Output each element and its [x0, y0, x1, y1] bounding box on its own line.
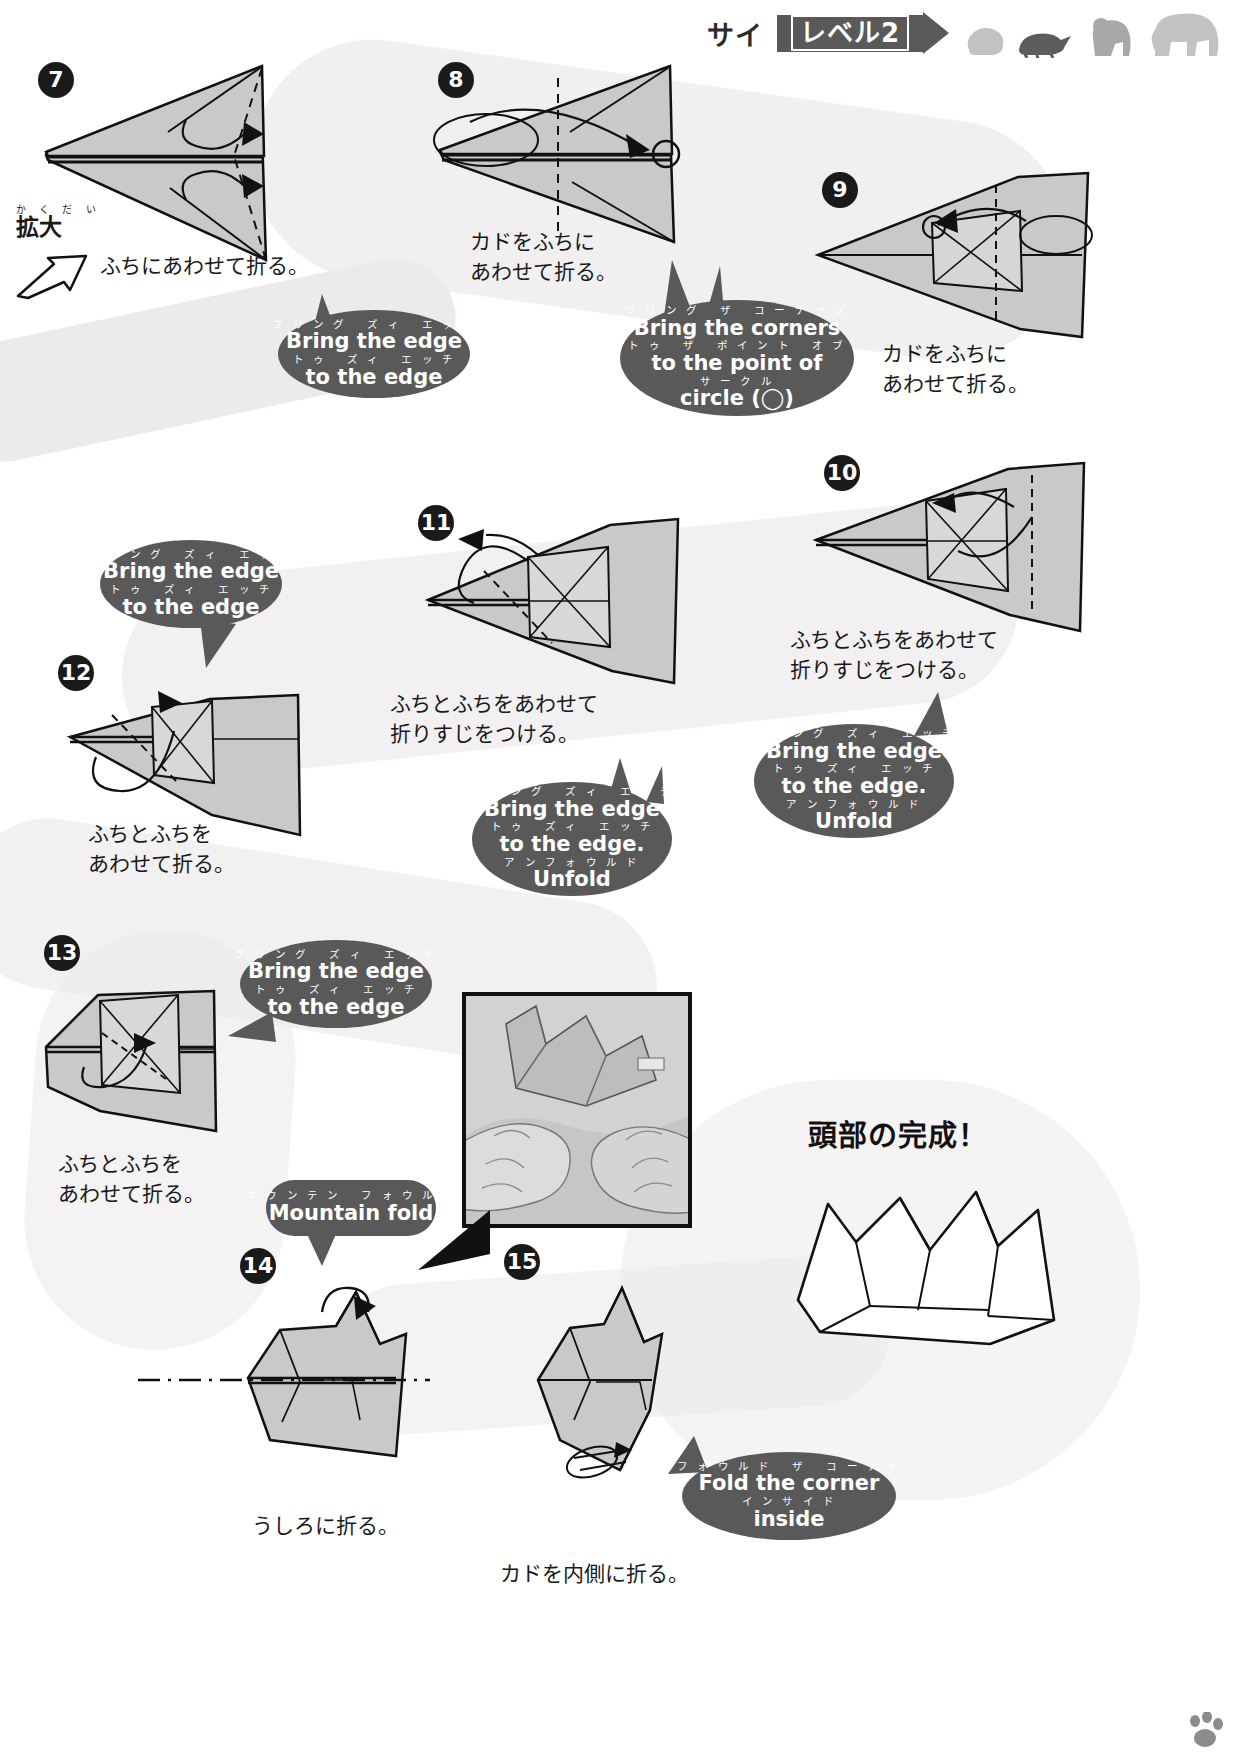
- step-9-diagram: [810, 165, 1100, 345]
- bubble-kana: イ ン サ イ ド: [742, 1496, 837, 1508]
- step-11-caption: ふちとふちをあわせて 折りすじをつける。: [390, 690, 598, 750]
- page-title: サイ: [707, 14, 763, 53]
- step-9-caption: カドをふちに あわせて折る。: [882, 340, 1029, 400]
- bubble-english: Bring the edge: [484, 798, 660, 822]
- bubble-english: Unfold: [533, 868, 611, 892]
- page-header: サイ レベル2: [707, 8, 1225, 58]
- step-7-caption: ふちにあわせて折る。: [100, 252, 309, 282]
- animal-difficulty-icons: [963, 8, 1225, 58]
- step-13-caption: ふちとふちを あわせて折る。: [58, 1150, 205, 1210]
- level-badge: レベル2: [777, 12, 949, 54]
- turtle-silhouette: [1015, 26, 1073, 58]
- bubble-tail-13: [222, 1008, 282, 1068]
- final-model-diagram: [780, 1180, 1080, 1360]
- step-14-diagram: [130, 1270, 460, 1490]
- step-8-caption: カドをふちに あわせて折る。: [470, 228, 617, 288]
- origami-instruction-page: サイ レベル2: [0, 0, 1233, 1756]
- speech-bubble-step-12: ブ リ ン グ ズ ィ エ ッ チ Bring the edge ト ゥ ズ ィ…: [100, 540, 282, 628]
- speech-bubble-step-11: ブ リ ン グ ズ ィ エ ッ チ Bring the edge ト ゥ ズ ィ…: [472, 782, 672, 896]
- bubble-kana: ト ゥ ズ ィ エ ッ チ: [110, 584, 273, 596]
- bubble-english: to the edge: [123, 596, 260, 620]
- enlarge-label: 拡大: [16, 216, 101, 239]
- speech-bubble-step-15: フ ォ ウ ル ド ザ コ ー ナ ァ Fold the corner イ ン …: [682, 1452, 896, 1540]
- bubble-english: to the edge.: [782, 775, 927, 799]
- bubble-english: Bring the edge: [248, 960, 424, 984]
- bubble-kana: ト ゥ ズ ィ エ ッ チ: [293, 354, 456, 366]
- bubble-english: Bring the edge: [766, 740, 942, 764]
- photo-content: [466, 996, 688, 1224]
- speech-bubble-step-10: ブ リ ン グ ズ ィ エ ッ チ Bring the edge ト ゥ ズ ィ…: [754, 724, 954, 838]
- step-14-caption: うしろに折る。: [252, 1512, 399, 1542]
- bubble-english: to the edge: [306, 366, 443, 390]
- bubble-kana: ト ゥ ズ ィ エ ッ チ: [255, 984, 418, 996]
- speech-bubble-step-7: ブ リ ン グ ズ ィ エ ッ チ Bring the edge ト ゥ ズ ィ…: [278, 310, 470, 398]
- enlarge-arrow-icon: [14, 250, 94, 300]
- enlarge-label-group: か く だ い 拡大: [16, 205, 101, 239]
- speech-bubble-step-14: マ ウ ン テ ン フ ォ ウ ル ド Mountain fold: [266, 1180, 436, 1236]
- hippo-silhouette: [963, 24, 1009, 58]
- elephant-silhouette: [1147, 8, 1225, 58]
- level-badge-label: レベル2: [791, 15, 909, 51]
- bubble-english: Bring the edge: [103, 560, 279, 584]
- final-result-title: 頭部の完成！: [808, 1112, 988, 1154]
- bubble-english: to the edge.: [500, 833, 645, 857]
- step-10-caption: ふちとふちをあわせて 折りすじをつける。: [790, 626, 998, 686]
- bubble-english: Mountain fold: [269, 1202, 434, 1226]
- bubble-english: Unfold: [815, 810, 893, 834]
- step-10-diagram: [808, 455, 1108, 645]
- bubble-english: inside: [753, 1508, 824, 1532]
- level-badge-arrow: [923, 12, 949, 54]
- step-15-caption: カドを内側に折る。: [500, 1560, 689, 1590]
- step-13-diagram: [38, 975, 268, 1165]
- step-12-caption: ふちとふちを あわせて折る。: [88, 820, 235, 880]
- step-11-diagram: [410, 505, 700, 695]
- step-number-13: 13: [44, 935, 80, 971]
- bubble-english: circle (◯): [680, 387, 794, 411]
- bubble-english: to the point of: [652, 352, 823, 376]
- bubble-english: Fold the corner: [699, 1472, 880, 1496]
- paw-print-icon: [1185, 1712, 1225, 1748]
- gorilla-silhouette: [1079, 16, 1141, 58]
- hands-photo: [462, 992, 692, 1228]
- bubble-english: to the edge: [268, 996, 405, 1020]
- bubble-tail-14: [300, 1230, 350, 1270]
- bubble-english: Bring the edge: [286, 330, 462, 354]
- step-12-diagram: [62, 665, 342, 845]
